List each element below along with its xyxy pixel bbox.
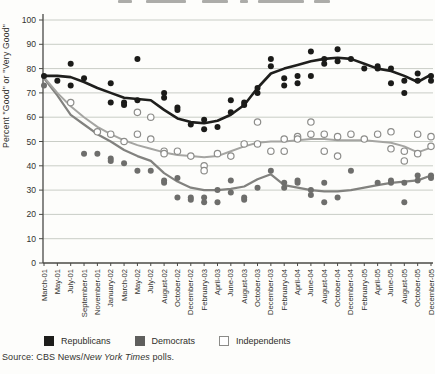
- republicans-data-point: [41, 73, 47, 79]
- x-tick-label: January-02: [106, 269, 115, 307]
- republicans-data-point: [81, 75, 87, 81]
- x-tick-label: March-01: [40, 269, 49, 301]
- democrats-data-point: [148, 168, 154, 174]
- independents-data-point: [188, 153, 194, 159]
- democrats-data-point: [241, 197, 247, 203]
- legend-label-republicans: Republicans: [61, 336, 111, 346]
- republicans-data-point: [108, 80, 114, 86]
- x-tick-label: July-01: [66, 269, 75, 293]
- republicans-data-point: [415, 78, 421, 84]
- independents-data-point: [161, 150, 167, 156]
- x-tick-label: October-03: [253, 269, 262, 307]
- y-tick-label: 70: [26, 88, 36, 98]
- y-tick-label: 20: [26, 209, 36, 219]
- republicans-data-point: [295, 80, 301, 86]
- x-tick-label: December-04: [346, 269, 355, 315]
- republicans-data-point: [348, 56, 354, 62]
- democrats-trend-line: [44, 78, 431, 191]
- independents-data-point: [401, 158, 407, 164]
- independents-data-point: [334, 133, 340, 139]
- y-tick-label: 60: [26, 112, 36, 122]
- republicans-data-point: [335, 58, 341, 64]
- x-tick-label: October-05: [413, 269, 422, 307]
- republicans-data-point: [281, 83, 287, 89]
- republicans-data-point: [68, 61, 74, 67]
- democrats-data-point: [188, 197, 194, 203]
- independents-data-point: [268, 148, 274, 154]
- democrats-data-point: [41, 83, 47, 89]
- republicans-data-point: [361, 66, 367, 72]
- democrats-data-point: [228, 177, 234, 183]
- independents-data-point: [121, 138, 127, 144]
- plot-area: 0102030405060708090100March-01May-01July…: [0, 0, 435, 374]
- legend-label-independents: Independents: [236, 336, 291, 346]
- x-tick-label: December-05: [427, 269, 435, 315]
- democrats-data-point: [201, 199, 207, 205]
- legend-label-democrats: Democrats: [152, 336, 196, 346]
- x-tick-label: May-02: [133, 269, 142, 294]
- democrats-data-point: [335, 194, 341, 200]
- legend-item-republicans: Republicans: [44, 336, 111, 346]
- republicans-data-point: [335, 46, 341, 52]
- independents-data-point: [308, 131, 314, 137]
- independents-data-point: [388, 146, 394, 152]
- independents-data-point: [414, 131, 420, 137]
- republicans-data-point: [308, 73, 314, 79]
- y-tick-label: 80: [26, 64, 36, 74]
- x-tick-label: February-05: [360, 269, 369, 310]
- independents-data-point: [174, 148, 180, 154]
- republicans-data-point: [134, 97, 140, 103]
- republicans-data-point: [401, 90, 407, 96]
- democrats-data-point: [214, 199, 220, 205]
- republicans-data-point: [295, 73, 301, 79]
- y-tick-label: 50: [26, 137, 36, 147]
- republicans-data-point: [68, 83, 74, 89]
- republicans-data-point: [228, 97, 234, 103]
- independents-data-point: [294, 136, 300, 142]
- y-tick-label: 100: [22, 15, 37, 25]
- x-tick-label: March-02: [120, 269, 129, 301]
- independents-data-point: [134, 131, 140, 137]
- x-tick-label: December-02: [186, 269, 195, 315]
- x-tick-label: February-03: [200, 269, 209, 310]
- chart-figure: Percent "Good" or "Very Good" 0102030405…: [0, 0, 435, 374]
- independents-swatch-icon: [219, 336, 229, 346]
- democrats-data-point: [161, 180, 167, 186]
- independents-data-point: [148, 136, 154, 142]
- republicans-data-point: [415, 70, 421, 76]
- x-tick-label: November-01: [93, 269, 102, 315]
- legend: Republicans Democrats Independents: [44, 334, 315, 348]
- x-tick-label: September-01: [80, 269, 89, 317]
- independents-data-point: [254, 141, 260, 147]
- independents-data-point: [361, 136, 367, 142]
- independents-data-point: [334, 153, 340, 159]
- y-tick-label: 40: [26, 161, 36, 171]
- independents-data-point: [108, 131, 114, 137]
- republicans-data-point: [255, 90, 261, 96]
- independents-data-point: [67, 99, 73, 105]
- independents-data-point: [428, 133, 434, 139]
- republicans-data-point: [214, 124, 220, 130]
- independents-data-point: [374, 131, 380, 137]
- republicans-data-point: [281, 75, 287, 81]
- x-tick-label: February-04: [280, 269, 289, 310]
- republicans-data-point: [201, 117, 207, 123]
- independents-data-point: [321, 148, 327, 154]
- independents-data-point: [201, 167, 207, 173]
- republicans-data-point: [388, 80, 394, 86]
- republicans-data-point: [401, 78, 407, 84]
- independents-data-point: [241, 141, 247, 147]
- x-tick-label: December-03: [266, 269, 275, 315]
- x-tick-label: April-05: [373, 269, 382, 295]
- republicans-data-point: [108, 100, 114, 106]
- democrats-data-point: [81, 151, 87, 157]
- independents-data-point: [414, 150, 420, 156]
- independents-data-point: [348, 131, 354, 137]
- republicans-data-point: [174, 107, 180, 113]
- republicans-data-point: [121, 102, 127, 108]
- democrats-data-point: [428, 175, 434, 181]
- republicans-swatch-icon: [44, 336, 54, 346]
- democrats-data-point: [268, 168, 274, 174]
- republicans-data-point: [388, 66, 394, 72]
- republicans-data-point: [54, 78, 60, 84]
